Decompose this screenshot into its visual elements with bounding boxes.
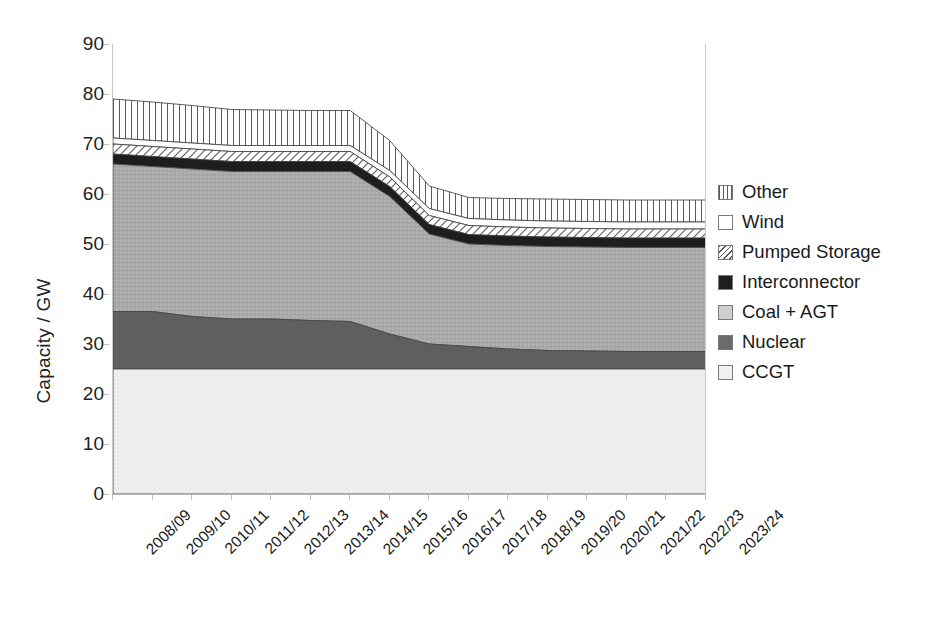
legend-item-coal-agt[interactable]: Coal + AGT bbox=[718, 303, 881, 322]
x-tick-mark bbox=[468, 495, 469, 500]
legend-item-interconnector[interactable]: Interconnector bbox=[718, 273, 881, 292]
x-tick-mark bbox=[310, 495, 311, 500]
area-chart: Capacity / GW 0102030405060708090 bbox=[0, 0, 941, 631]
legend-item-nuclear[interactable]: Nuclear bbox=[718, 333, 881, 352]
diagonal-hatch-swatch bbox=[718, 245, 733, 260]
x-tick-mark bbox=[231, 495, 232, 500]
legend-item-wind[interactable]: Wind bbox=[718, 213, 881, 232]
legend-item-label: Interconnector bbox=[742, 273, 860, 292]
x-tick-mark bbox=[586, 495, 587, 500]
legend-item-label: Nuclear bbox=[742, 333, 806, 352]
x-tick-mark bbox=[705, 495, 706, 500]
vertical-lines-swatch bbox=[718, 185, 733, 200]
legend-item-other[interactable]: Other bbox=[718, 183, 881, 202]
x-tick-mark bbox=[507, 495, 508, 500]
x-tick-mark bbox=[349, 495, 350, 500]
x-tick-mark bbox=[626, 495, 627, 500]
x-tick-mark bbox=[428, 495, 429, 500]
legend-item-label: Pumped Storage bbox=[742, 243, 881, 262]
mid-gray-swatch bbox=[718, 335, 733, 350]
legend-item-label: CCGT bbox=[742, 363, 794, 382]
x-tick-mark bbox=[270, 495, 271, 500]
x-tick-mark bbox=[389, 495, 390, 500]
chart-legend: OtherWindPumped StorageInterconnectorCoa… bbox=[718, 183, 881, 382]
x-tick-mark bbox=[547, 495, 548, 500]
legend-item-label: Other bbox=[742, 183, 788, 202]
legend-item-label: Wind bbox=[742, 213, 784, 232]
legend-item-pumped-storage[interactable]: Pumped Storage bbox=[718, 243, 881, 262]
solid-dark-swatch bbox=[718, 275, 733, 290]
empty-swatch bbox=[718, 215, 733, 230]
x-tick-mark bbox=[191, 495, 192, 500]
x-tick-mark bbox=[152, 495, 153, 500]
light-gray-swatch bbox=[718, 305, 733, 320]
very-light-gray-swatch bbox=[718, 365, 733, 380]
x-tick-mark bbox=[665, 495, 666, 500]
legend-item-ccgt[interactable]: CCGT bbox=[718, 363, 881, 382]
legend-item-label: Coal + AGT bbox=[742, 303, 838, 322]
x-tick-mark bbox=[112, 495, 113, 500]
